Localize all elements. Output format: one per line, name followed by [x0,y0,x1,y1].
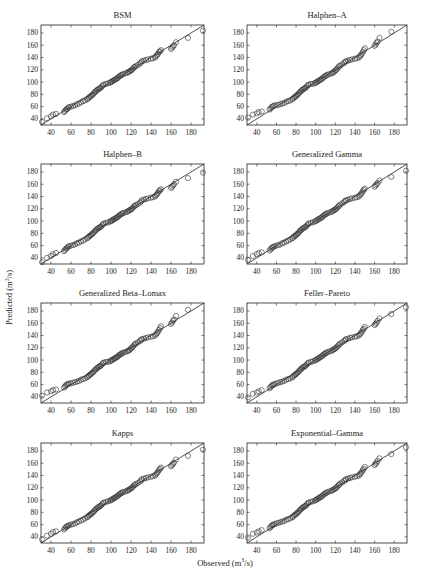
y-tick-label: 60 [31,102,39,111]
x-tick-label: 80 [87,546,95,555]
data-point [245,115,250,120]
x-tick-label: 100 [310,406,322,415]
y-tick-label: 60 [31,520,39,529]
y-tick-label: 60 [31,241,39,250]
x-tick-label: 180 [389,546,401,555]
data-point [259,109,264,114]
y-tick-label: 120 [27,483,39,492]
panel-kapps: Kapps40608010012014016018040608010012014… [27,428,206,555]
y-tick-label: 100 [233,78,245,87]
y-tick-label: 180 [233,28,245,37]
data-point [39,393,44,398]
x-tick-label: 40 [253,267,261,276]
y-tick-label: 60 [237,380,245,389]
x-tick-label: 100 [310,546,322,555]
x-tick-label: 140 [145,406,157,415]
data-point [403,305,408,310]
y-tick-label: 120 [27,343,39,352]
y-tick-label: 120 [233,204,245,213]
y-tick-label: 180 [233,167,245,176]
x-tick-label: 120 [330,406,342,415]
panel-exponential-gamma: Exponential–Gamma40608010012014016018040… [233,428,409,555]
y-tick-label: 40 [31,392,39,401]
qq-figure: BSM4060801001201401601804060801001201401… [0,0,424,584]
x-tick-label: 120 [125,128,137,137]
x-tick-label: 140 [349,546,361,555]
x-axis-label: Observed (m3/s) [175,557,275,568]
x-tick-label: 60 [67,267,75,276]
x-tick-label: 120 [125,267,137,276]
data-point [185,307,190,312]
y-tick-label: 80 [237,229,245,238]
y-tick-label: 40 [31,532,39,541]
data-point [200,170,205,175]
y-tick-label: 80 [237,90,245,99]
panel-title: Exponential–Gamma [291,428,363,438]
y-tick-label: 140 [27,192,39,201]
x-tick-label: 80 [292,267,300,276]
x-tick-label: 80 [87,128,95,137]
y-tick-label: 180 [27,446,39,455]
data-point [245,395,250,400]
data-point [403,168,408,173]
data-point [259,250,264,255]
x-tick-label: 160 [165,267,177,276]
y-tick-label: 160 [27,319,39,328]
x-tick-label: 160 [165,128,177,137]
y-tick-label: 40 [31,114,39,123]
data-point [39,119,44,124]
x-tick-label: 180 [185,546,197,555]
data-point [185,176,190,181]
x-tick-label: 100 [105,267,117,276]
panel-feller-pareto: Feller–Pareto406080100120140160180406080… [233,288,409,415]
y-tick-label: 160 [27,41,39,50]
x-tick-label: 140 [145,267,157,276]
plot-grid: BSM4060801001201401601804060801001201401… [0,0,424,584]
x-tick-label: 180 [389,128,401,137]
data-point [389,29,394,34]
data-point [259,388,264,393]
y-tick-label: 80 [31,368,39,377]
x-tick-label: 120 [330,546,342,555]
panel-generalized-gamma: Generalized Gamma40608010012014016018040… [233,149,409,276]
y-tick-label: 160 [233,180,245,189]
x-tick-label: 160 [369,406,381,415]
y-tick-label: 140 [233,331,245,340]
x-tick-label: 40 [253,406,261,415]
y-tick-label: 180 [233,446,245,455]
x-tick-label: 40 [47,406,55,415]
x-tick-label: 100 [105,406,117,415]
y-tick-label: 180 [233,306,245,315]
y-tick-label: 160 [27,180,39,189]
x-tick-label: 140 [145,128,157,137]
y-tick-label: 60 [237,520,245,529]
panel-title: Generalized Gamma [292,149,362,159]
data-point [185,35,190,40]
panel-title: Feller–Pareto [304,288,350,298]
y-tick-label: 40 [31,253,39,262]
x-tick-label: 60 [273,267,281,276]
x-tick-label: 60 [273,546,281,555]
data-point [185,453,190,458]
x-tick-label: 40 [47,546,55,555]
y-tick-label: 160 [233,41,245,50]
x-tick-label: 80 [292,406,300,415]
y-tick-label: 140 [27,331,39,340]
y-tick-label: 80 [237,508,245,517]
x-tick-label: 180 [185,406,197,415]
x-tick-label: 160 [369,267,381,276]
x-tick-label: 60 [67,128,75,137]
y-tick-label: 160 [233,459,245,468]
y-tick-label: 80 [237,368,245,377]
y-tick-label: 100 [27,78,39,87]
y-tick-label: 120 [233,65,245,74]
y-tick-label: 100 [27,217,39,226]
y-tick-label: 180 [27,28,39,37]
x-tick-label: 140 [145,546,157,555]
data-point [200,28,205,33]
y-tick-label: 80 [31,508,39,517]
x-tick-label: 60 [273,406,281,415]
x-tick-label: 180 [389,406,401,415]
x-tick-label: 60 [273,128,281,137]
panel-title: Generalized Beta–Lomax [79,288,167,298]
